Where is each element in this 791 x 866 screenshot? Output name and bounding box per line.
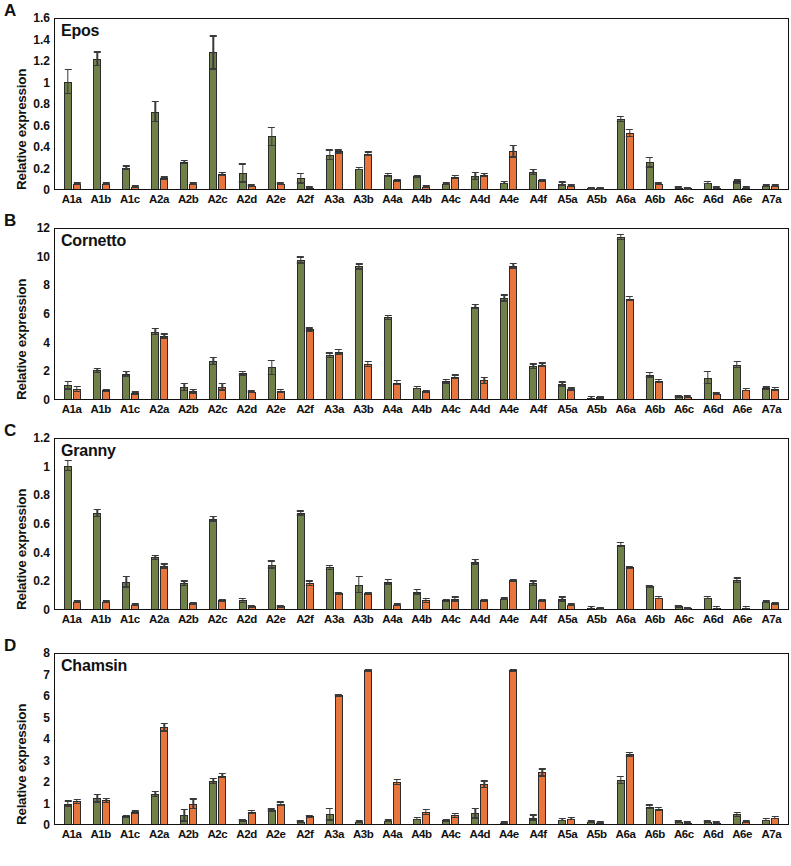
y-tick-label: 4 <box>43 732 50 746</box>
bar-series2 <box>742 390 750 399</box>
error-bar <box>309 186 310 189</box>
bar-series2 <box>480 784 488 824</box>
bar-series2 <box>160 727 168 824</box>
error-bar <box>629 752 630 757</box>
bar-group <box>116 439 145 609</box>
error-bar <box>251 605 252 608</box>
error-bar <box>425 809 426 815</box>
bar-group <box>552 654 581 824</box>
bar-series2 <box>509 670 517 824</box>
error-bar <box>571 817 572 820</box>
bar-series1 <box>500 298 508 399</box>
y-tick-label: 1.4 <box>33 33 50 47</box>
bar-group <box>698 439 727 609</box>
x-tick-label: A2e <box>261 613 290 625</box>
bar-series1 <box>355 585 363 609</box>
bar-series2 <box>655 184 663 189</box>
error-bar <box>193 602 194 605</box>
y-tick-label: 0.6 <box>33 119 50 133</box>
bar-group <box>727 439 756 609</box>
bar-series2 <box>626 133 634 189</box>
bar-series1 <box>326 567 334 609</box>
error-bar <box>164 723 165 732</box>
error-bar <box>125 165 126 169</box>
error-bar <box>774 387 775 391</box>
bar-series1 <box>471 307 479 399</box>
bar-group <box>320 439 349 609</box>
bar-group <box>523 229 552 399</box>
error-bar <box>629 296 630 301</box>
x-tick-label: A6c <box>669 828 698 840</box>
bar-group <box>436 229 465 399</box>
x-tick-label: A1b <box>86 613 115 625</box>
bar-series1 <box>64 82 72 190</box>
bar-series1 <box>529 583 537 609</box>
error-bar <box>184 160 185 164</box>
bar-series1 <box>209 361 217 399</box>
error-bar <box>678 395 679 398</box>
error-bar <box>416 817 417 820</box>
bar-series2 <box>538 365 546 399</box>
x-tick-label: A6c <box>669 613 698 625</box>
bar-series2 <box>189 804 197 824</box>
bar-series1 <box>646 162 654 189</box>
bar-group <box>203 19 232 189</box>
bar-series1 <box>675 396 683 399</box>
error-bar <box>184 383 185 392</box>
error-bar <box>600 187 601 190</box>
bar-series1 <box>297 822 305 824</box>
bar-series2 <box>713 188 721 189</box>
bar-container <box>55 19 788 189</box>
error-bar <box>134 185 135 188</box>
bar-group <box>145 19 174 189</box>
bar-series2 <box>335 352 343 399</box>
bar-series1 <box>268 565 276 609</box>
bar-group <box>552 229 581 399</box>
bar-group <box>407 229 436 399</box>
error-bar <box>562 818 563 821</box>
x-tick-label: A1b <box>86 828 115 840</box>
bar-group <box>378 439 407 609</box>
bar-group <box>174 229 203 399</box>
bar-series1 <box>64 466 72 609</box>
bar-series2 <box>771 186 779 189</box>
error-bar <box>222 172 223 176</box>
y-tick-label: 0 <box>43 818 50 832</box>
bar-series1 <box>646 807 654 824</box>
bar-series1 <box>239 820 247 824</box>
bar-group <box>436 654 465 824</box>
bar-group <box>698 229 727 399</box>
x-tick-label: A1a <box>57 613 86 625</box>
error-bar <box>271 560 272 569</box>
bar-series1 <box>500 183 508 189</box>
y-tick-label: 0 <box>43 393 50 407</box>
error-bar <box>649 585 650 588</box>
x-tick-label: A2c <box>203 193 232 205</box>
bar-series1 <box>529 366 537 399</box>
x-tick-label: A3a <box>319 613 348 625</box>
bar-group <box>87 654 116 824</box>
y-tick-label: 3 <box>43 754 50 768</box>
bar-group <box>291 229 320 399</box>
error-bar <box>242 819 243 822</box>
bar-group <box>58 19 87 189</box>
error-bar <box>134 603 135 606</box>
bar-series1 <box>587 822 595 824</box>
bar-series2 <box>451 377 459 399</box>
bar-group <box>465 439 494 609</box>
bar-group <box>320 229 349 399</box>
x-tick-label: A4f <box>524 403 553 415</box>
error-bar <box>416 386 417 389</box>
bar-group <box>610 19 639 189</box>
bar-series2 <box>364 670 372 824</box>
error-bar <box>620 776 621 785</box>
error-bar <box>678 820 679 823</box>
y-tick-label: 1 <box>43 797 50 811</box>
bar-series1 <box>268 136 276 189</box>
error-bar <box>687 187 688 190</box>
error-bar <box>562 596 563 602</box>
bar-series1 <box>617 119 625 189</box>
y-tick-label: 0 <box>43 183 50 197</box>
bar-series1 <box>151 112 159 189</box>
error-bar <box>533 169 534 175</box>
